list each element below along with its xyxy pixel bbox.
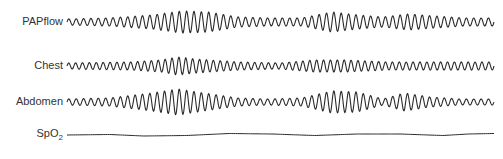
trace-chest — [67, 57, 494, 74]
trace-abdomen — [67, 89, 494, 114]
waveform-plot — [0, 0, 503, 159]
trace-papflow — [67, 11, 494, 33]
trace-spo2 — [67, 134, 494, 137]
